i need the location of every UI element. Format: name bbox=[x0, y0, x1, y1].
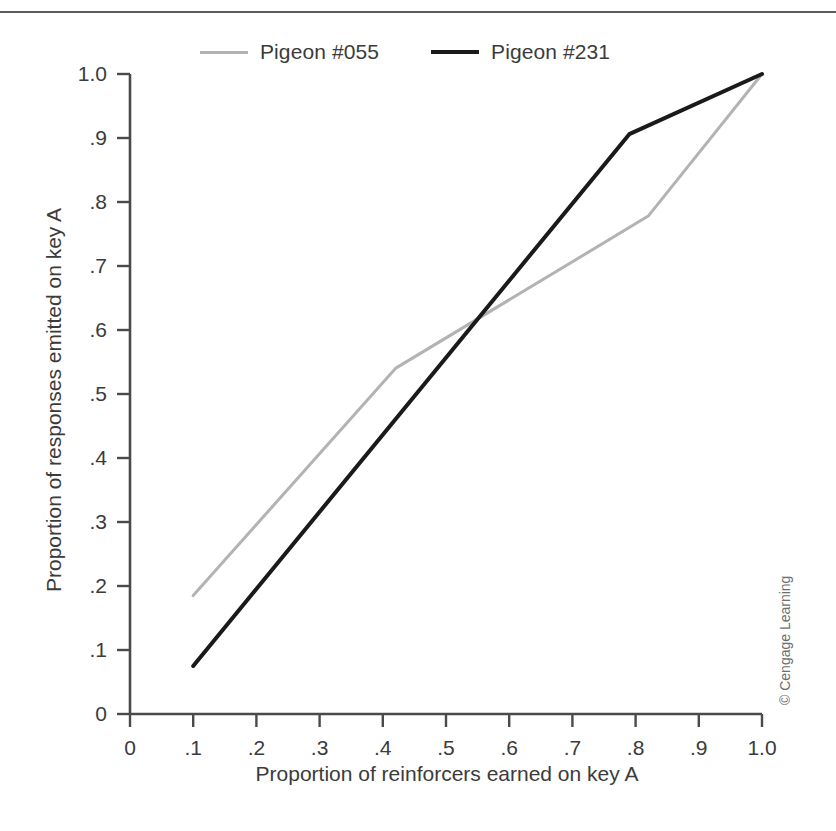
x-axis-tick-label: .8 bbox=[627, 736, 645, 760]
plot-area: 0.1.2.3.4.5.6.7.8.91.00.1.2.3.4.5.6.7.8.… bbox=[0, 0, 836, 831]
x-axis-tick-label: .5 bbox=[437, 736, 455, 760]
data-line-pigeon-231 bbox=[193, 74, 762, 666]
matching-law-figure: Pigeon #055 Pigeon #231 0.1.2.3.4.5.6.7.… bbox=[0, 0, 836, 831]
plot-canvas bbox=[0, 0, 836, 831]
x-axis-tick-label: 1.0 bbox=[747, 736, 776, 760]
x-axis-tick-label: .1 bbox=[184, 736, 202, 760]
x-axis-tick-label: .2 bbox=[248, 736, 266, 760]
y-axis-tick-label: 1.0 bbox=[47, 62, 107, 86]
data-line-pigeon-055 bbox=[193, 74, 762, 596]
x-axis-tick-label: .9 bbox=[690, 736, 708, 760]
axis-ticks bbox=[117, 74, 762, 727]
y-axis-title: Proportion of responses emitted on key A bbox=[42, 140, 66, 660]
x-axis-tick-label: .6 bbox=[500, 736, 518, 760]
copyright-credit: © Cengage Learning bbox=[777, 535, 793, 705]
x-axis-tick-label: .4 bbox=[374, 736, 392, 760]
x-axis-tick-label: .3 bbox=[311, 736, 329, 760]
data-series-group bbox=[193, 74, 762, 666]
x-axis-title: Proportion of reinforcers earned on key … bbox=[130, 762, 764, 786]
x-axis-tick-label: .7 bbox=[564, 736, 582, 760]
axis-lines bbox=[130, 74, 762, 714]
y-axis-tick-label: 0 bbox=[47, 702, 107, 726]
x-axis-tick-label: 0 bbox=[124, 736, 136, 760]
